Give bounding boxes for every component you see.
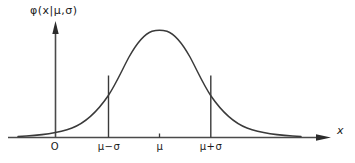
gaussian-distribution-figure: φ(x|μ,σ) x O μ−σ μ μ+σ <box>0 0 355 163</box>
tick-label-mu-minus-sigma: μ−σ <box>98 141 121 152</box>
tick-label-mu-plus-sigma: μ+σ <box>200 141 223 152</box>
x-axis-arrowhead <box>316 134 331 140</box>
tick-label-mu: μ <box>157 141 164 152</box>
tick-label-origin: O <box>51 141 59 152</box>
y-axis-arrowhead <box>52 21 58 34</box>
plot-canvas <box>0 0 355 163</box>
y-axis-label: φ(x|μ,σ) <box>30 4 78 17</box>
x-axis-label: x <box>337 124 344 137</box>
gaussian-curve <box>18 30 301 136</box>
